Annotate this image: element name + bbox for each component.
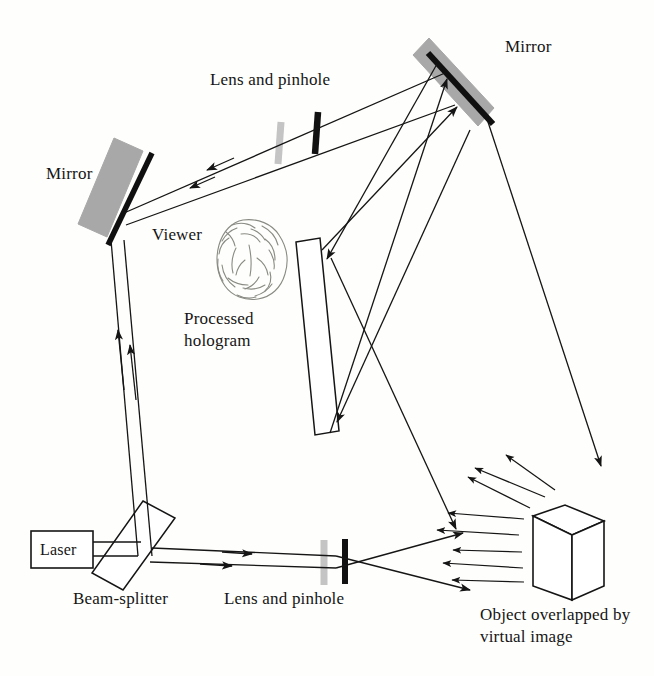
label-processed-hologram: Processed hologram [184,308,294,352]
rays-into-top-mirror [322,79,457,433]
arrow-up-a [118,330,124,390]
mirror-left [78,138,152,245]
viewer-head [217,220,287,300]
scatter-ray-1 [506,455,555,490]
processed-hologram-plate [296,238,339,435]
lens-pinhole-lower [324,539,345,585]
ray-diverge-down [336,556,470,590]
label-laser: Laser [40,540,77,560]
beam-splitter-to-object [150,533,470,590]
ray-top-mirror-to-hologram-top [327,64,437,259]
lens-pinhole-upper [278,112,318,164]
scatter-ray-8 [452,580,524,582]
lens-upper [278,122,281,164]
scatter-ray-6 [453,550,522,552]
beam-left-mirror-to-top-mirror [124,73,455,225]
scatter-ray-4 [448,513,524,519]
holography-diagram: Mirror Mirror Lens and pinhole Viewer Pr… [0,0,654,676]
label-beam-splitter: Beam-splitter [73,588,168,610]
label-lens-pinhole-upper: Lens and pinhole [210,69,330,91]
scatter-ray-5 [437,530,519,535]
ray-hologram-to-top-mirror [330,79,447,433]
label-lens-pinhole-lower: Lens and pinhole [224,588,344,610]
label-mirror-top-right: Mirror [505,36,552,58]
ray-top-mirror-to-object [488,122,601,466]
object-cube [533,505,604,600]
mirror-top-right-surface [428,53,493,124]
beam-splitter-plate [92,501,175,590]
pinhole-upper [315,112,318,154]
ray-top-mirror-to-hologram-bottom [337,130,470,422]
arrow-left-b [207,158,234,170]
rays-top-mirror-to-hologram [327,64,470,422]
scatter-ray-2 [475,468,545,497]
label-object-overlapped: Object overlapped by virtual image [480,604,645,648]
scatter-ray-7 [443,563,523,568]
label-viewer: Viewer [152,224,202,246]
label-mirror-left: Mirror [46,163,93,185]
diagram-canvas [0,0,654,676]
scatter-ray-3 [468,477,530,508]
